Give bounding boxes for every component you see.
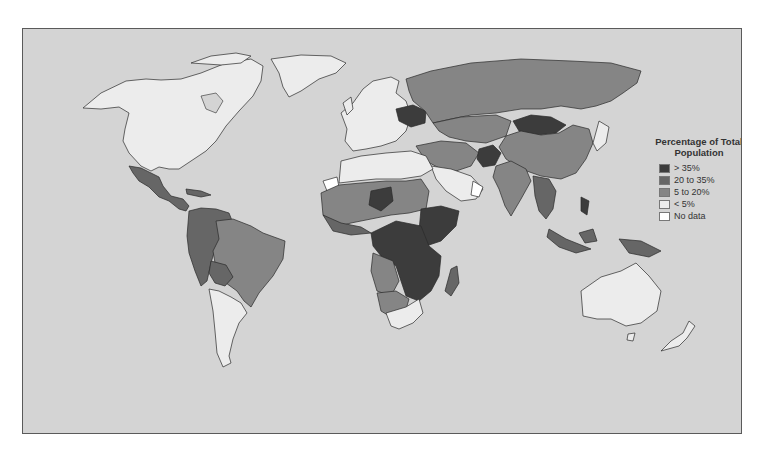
map-frame: Percentage of Total Population > 35% 20 … — [22, 28, 742, 434]
region-australia — [581, 263, 661, 326]
region-mexico-central-america — [129, 166, 189, 211]
legend-swatch — [659, 164, 670, 173]
region-north-africa — [339, 151, 433, 183]
region-japan — [593, 121, 609, 151]
region-new-zealand — [661, 321, 695, 351]
legend-label: No data — [674, 211, 706, 221]
legend-title-line1: Percentage of Total — [643, 136, 742, 147]
legend-label: < 5% — [674, 199, 695, 209]
region-north-america — [83, 59, 263, 171]
region-madagascar — [445, 266, 459, 296]
legend-label: > 35% — [674, 163, 700, 173]
region-borneo — [579, 229, 597, 243]
region-tasmania — [627, 333, 635, 341]
legend-swatch — [659, 176, 670, 185]
region-southeast-asia — [533, 176, 556, 219]
region-southern-cone — [209, 289, 247, 367]
legend-label: 20 to 35% — [674, 175, 715, 185]
legend-title-line2: Population — [643, 147, 742, 158]
region-afghanistan — [477, 145, 501, 167]
legend-label: 5 to 20% — [674, 187, 710, 197]
region-greenland — [271, 55, 346, 97]
region-russia — [406, 59, 641, 123]
region-india — [493, 161, 531, 216]
legend-item-over-35: > 35% — [659, 162, 742, 174]
map-legend: Percentage of Total Population > 35% 20 … — [643, 136, 742, 222]
legend-item-20-to-35: 20 to 35% — [659, 174, 742, 186]
legend-item-under-5: < 5% — [659, 198, 742, 210]
region-caribbean — [186, 189, 211, 197]
legend-swatch — [659, 200, 670, 209]
legend-swatch — [659, 212, 670, 221]
legend-item-no-data: No data — [659, 210, 742, 222]
legend-swatch — [659, 188, 670, 197]
region-philippines — [581, 197, 589, 215]
world-map — [23, 29, 742, 434]
region-oman — [471, 181, 483, 197]
legend-item-5-to-20: 5 to 20% — [659, 186, 742, 198]
region-png — [619, 239, 661, 257]
legend-items: > 35% 20 to 35% 5 to 20% < 5% No data — [659, 162, 742, 222]
